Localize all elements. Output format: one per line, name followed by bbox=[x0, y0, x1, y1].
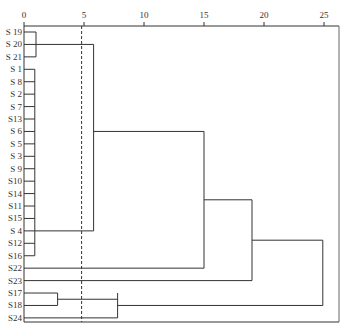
leaf-label: S24 bbox=[8, 313, 23, 323]
dendrogram-figure: 0510152025 S 19S 20S 21S 1S 8S 2S 7S13S … bbox=[0, 0, 347, 334]
leaf-label: S 2 bbox=[10, 89, 22, 99]
x-tick-label: 0 bbox=[22, 10, 27, 20]
leaf-label: S 1 bbox=[10, 64, 22, 74]
x-tick-label: 15 bbox=[200, 10, 210, 20]
leaf-label: S16 bbox=[8, 251, 23, 261]
leaf-label: S22 bbox=[8, 263, 22, 273]
leaf-label: S 5 bbox=[10, 139, 22, 149]
leaf-label: S 21 bbox=[6, 52, 22, 62]
leaf-label: S 9 bbox=[10, 164, 22, 174]
leaf-label: S14 bbox=[8, 189, 23, 199]
x-tick-label: 5 bbox=[82, 10, 87, 20]
leaf-label: S15 bbox=[8, 213, 23, 223]
leaf-label: S18 bbox=[8, 300, 23, 310]
leaf-label: S23 bbox=[8, 276, 23, 286]
leaf-label: S10 bbox=[8, 176, 23, 186]
leaf-label: S11 bbox=[8, 201, 22, 211]
x-tick-label: 20 bbox=[260, 10, 270, 20]
x-tick-label: 25 bbox=[320, 10, 330, 20]
x-axis: 0510152025 bbox=[22, 10, 339, 26]
leaf-label: S 3 bbox=[10, 151, 22, 161]
leaf-labels: S 19S 20S 21S 1S 8S 2S 7S13S 6S 5S 3S 9S… bbox=[6, 27, 23, 323]
leaf-label: S13 bbox=[8, 114, 23, 124]
leaf-label: S 6 bbox=[10, 126, 22, 136]
leaf-label: S12 bbox=[8, 238, 22, 248]
leaf-label: S 7 bbox=[10, 102, 22, 112]
dendrogram-chart: 0510152025 S 19S 20S 21S 1S 8S 2S 7S13S … bbox=[0, 0, 347, 334]
dendrogram-links bbox=[24, 26, 323, 322]
chart-frame bbox=[24, 26, 339, 322]
leaf-label: S 19 bbox=[6, 27, 23, 37]
leaf-label: S 8 bbox=[10, 77, 22, 87]
leaf-label: S 20 bbox=[6, 39, 23, 49]
x-tick-label: 10 bbox=[140, 10, 150, 20]
leaf-label: S 4 bbox=[10, 226, 22, 236]
leaf-label: S17 bbox=[8, 288, 23, 298]
